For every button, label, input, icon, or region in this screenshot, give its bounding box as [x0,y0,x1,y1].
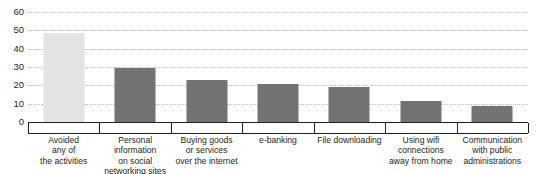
x-axis-label-line: Avoided [29,135,98,145]
axis-tick [385,122,386,133]
x-axis-label-line: administrations [458,156,527,166]
axis-tick [99,122,100,133]
x-axis-label-line: connections [386,145,455,155]
y-axis: 0102030405060 [0,0,24,134]
x-axis-labels: Avoidedany ofthe activitiesPersonalinfor… [28,135,528,174]
bar-slot [385,12,456,122]
bar[interactable] [186,80,227,122]
bar[interactable] [329,87,370,122]
axis-tick [28,123,29,133]
y-tick-label: 30 [0,62,24,72]
x-axis-label-line: Using wifi [386,135,455,145]
x-axis-label-line: over the internet [172,156,241,166]
y-tick-label: 50 [0,25,24,35]
bar[interactable] [400,101,441,122]
bar-slot [99,12,170,122]
x-axis-label-line: with public [458,145,527,155]
x-axis-label: File downloading [314,135,385,145]
x-axis-label: Avoidedany ofthe activities [28,135,99,166]
x-axis-label: Buying goodsor servicesover the internet [171,135,242,166]
axis-tick [457,122,458,133]
bar[interactable] [472,106,513,122]
x-axis-label-line: e-banking [243,135,312,145]
x-axis-label: Personalinformationon socialnetworking s… [99,135,170,174]
bar-slot [314,12,385,122]
x-axis-label-line: Buying goods [172,135,241,145]
bar[interactable] [257,84,298,123]
x-axis-label-line: the activities [29,156,98,166]
x-axis-label-line: information [100,145,169,155]
axis-tick [528,123,529,133]
bar-slot [457,12,528,122]
x-axis-label: e-banking [242,135,313,145]
x-axis-label-line: Personal [100,135,169,145]
bar[interactable] [43,33,84,122]
bars-layer [28,12,528,122]
y-tick-label: 10 [0,99,24,109]
x-axis-label-line: away from home [386,156,455,166]
x-axis-label: Communicationwith publicadministrations [457,135,528,166]
y-tick-label: 0 [0,117,24,127]
y-tick-label: 40 [0,44,24,54]
x-axis-baseline [28,133,528,134]
x-axis-label-line: any of [29,145,98,155]
x-axis-label-line: Communication [458,135,527,145]
x-axis-label-line: or services [172,145,241,155]
axis-tick [242,122,243,133]
y-tick-label: 60 [0,7,24,17]
bar-slot [28,12,99,122]
bar-chart: 0102030405060 Avoidedany ofthe activitie… [0,0,537,174]
axis-tick [314,122,315,133]
bar[interactable] [115,68,156,122]
x-axis-label-line: File downloading [315,135,384,145]
axis-tick [171,122,172,133]
plot-area [28,12,528,122]
x-axis-line [28,122,528,123]
x-axis-label: Using wificonnectionsaway from home [385,135,456,166]
bar-slot [171,12,242,122]
bar-slot [242,12,313,122]
y-tick-label: 20 [0,80,24,90]
x-axis-label-line: on social [100,156,169,166]
x-axis-label-line: networking sites [100,166,169,174]
